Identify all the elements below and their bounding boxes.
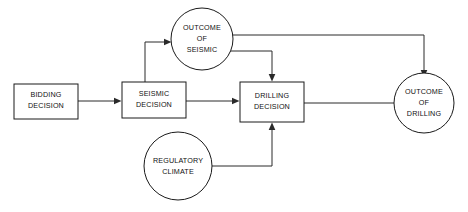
edge-line (228, 51, 272, 79)
drilling-decision-label-line2: DECISION (254, 102, 290, 111)
node-bidding-decision[interactable]: BIDDING DECISION (14, 84, 78, 119)
edge-outcome-of-seismic-to-outcome-of-drilling (231, 35, 427, 78)
arrow-head-icon (269, 74, 276, 82)
arrow-head-icon (164, 39, 172, 46)
regulatory-climate-label-line2: CLIMATE (162, 167, 194, 176)
outcome-of-seismic-label-line2: OF (197, 34, 208, 43)
node-outcome-of-seismic[interactable]: OUTCOME OF SEISMIC (171, 8, 233, 70)
edge-regulatory-to-drilling (212, 123, 275, 167)
node-seismic-decision[interactable]: SEISMIC DECISION (122, 82, 186, 118)
bidding-decision-label-line1: BIDDING (30, 90, 61, 99)
arrow-head-icon (232, 98, 240, 105)
outcome-of-drilling-label-line1: OUTCOME (405, 87, 443, 96)
edge-outcome-of-seismic-to-drilling (228, 51, 275, 82)
outcome-of-seismic-label-line1: OUTCOME (183, 23, 221, 32)
edge-seismic-to-drilling (186, 98, 240, 105)
bidding-decision-label-line2: DECISION (28, 101, 64, 110)
outcome-of-drilling-label-line2: OF (419, 98, 430, 107)
seismic-decision-label-line1: SEISMIC (139, 89, 170, 98)
influence-diagram: BIDDING DECISION SEISMIC DECISION DRILLI… (0, 0, 468, 212)
edge-seismic-to-outcome-of-seismic (145, 39, 172, 82)
outcome-of-drilling-label-line3: DRILLING (407, 109, 442, 118)
node-regulatory-climate[interactable]: REGULATORY CLIMATE (144, 132, 212, 200)
influence-diagram-canvas: BIDDING DECISION SEISMIC DECISION DRILLI… (0, 0, 468, 212)
edge-line (212, 125, 272, 166)
node-outcome-of-drilling[interactable]: OUTCOME OF DRILLING (394, 73, 454, 133)
edge-bidding-to-seismic (78, 98, 122, 105)
seismic-decision-label-line2: DECISION (136, 100, 172, 109)
outcome-of-seismic-label-line3: SEISMIC (187, 45, 218, 54)
node-drilling-decision[interactable]: DRILLING DECISION (240, 82, 304, 122)
edge-line (145, 42, 169, 82)
regulatory-climate-circle[interactable] (144, 132, 212, 200)
regulatory-climate-label-line1: REGULATORY (153, 156, 203, 165)
arrow-head-icon (269, 123, 276, 131)
edge-line (231, 35, 424, 75)
arrow-head-icon (114, 98, 122, 105)
drilling-decision-label-line1: DRILLING (255, 91, 290, 100)
